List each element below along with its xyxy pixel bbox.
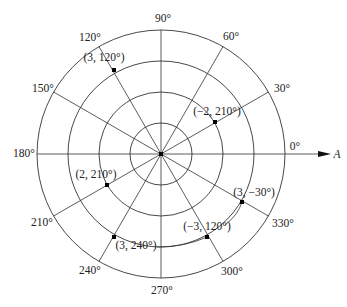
point-minus2-210 <box>213 120 217 124</box>
origin-point <box>159 152 163 156</box>
point-minus3-120 <box>205 235 209 239</box>
angle-label-210: 210° <box>31 217 53 229</box>
angle-label-150: 150° <box>32 83 54 95</box>
angle-label-180: 180° <box>13 148 35 160</box>
point-3-120 <box>112 68 116 72</box>
angle-label-300: 300° <box>221 266 243 278</box>
point-label-2-210: (2, 210°) <box>75 169 116 181</box>
angle-label-270: 270° <box>151 285 173 297</box>
point-label-3-120: (3, 120°) <box>83 52 124 64</box>
polar-axis-arrowhead <box>318 151 331 157</box>
point-3-minus30 <box>240 200 244 204</box>
angle-label-240: 240° <box>79 265 101 277</box>
point-label-3-minus30: (3, −30°) <box>233 187 275 199</box>
radial-rays <box>37 30 322 278</box>
point-label-minus2-210: (−2, 210°) <box>193 106 241 118</box>
angle-label-330: 330° <box>272 218 294 230</box>
angle-label-0: 0° <box>290 141 300 153</box>
angle-label-30: 30° <box>274 83 290 95</box>
angle-label-120: 120° <box>79 32 101 44</box>
angle-label-60: 60° <box>223 31 239 43</box>
polar-axis-label: A <box>333 149 340 161</box>
point-2-210 <box>105 183 109 187</box>
polar-grid-diagram <box>0 0 347 307</box>
point-label-minus3-120: (−3, 120°) <box>183 221 231 233</box>
angle-label-90: 90° <box>155 13 171 25</box>
point-label-3-240: (3, 240°) <box>115 240 156 252</box>
